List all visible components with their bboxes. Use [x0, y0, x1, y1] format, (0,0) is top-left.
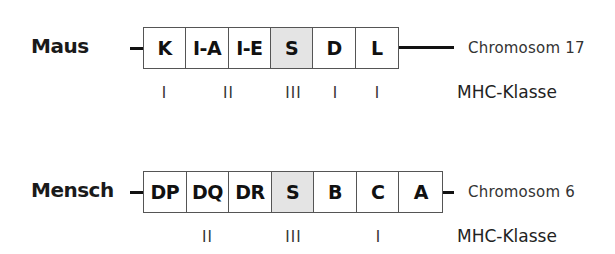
gene-s: S — [272, 172, 315, 212]
chromosome-line-left — [130, 47, 143, 50]
mhc-class-label: II — [207, 84, 250, 102]
gene-map-mouse: K I-A I-E S D L — [143, 27, 399, 69]
mhc-class-label: I — [356, 84, 399, 102]
mhc-class-label: II — [186, 228, 229, 246]
gene-c: C — [357, 172, 400, 212]
chromosome-label-human: Chromosom 6 — [468, 183, 575, 201]
gene-map-human: DP DQ DR S B C A — [143, 171, 443, 213]
chromosome-label-mouse: Chromosom 17 — [468, 39, 585, 57]
mhc-class-label: III — [272, 228, 315, 246]
gene-dp: DP — [144, 172, 187, 212]
mhc-class-label: I — [143, 84, 186, 102]
chromosome-line-right — [399, 46, 454, 49]
gene-i-a: I-A — [186, 28, 228, 68]
gene-i-e: I-E — [229, 28, 271, 68]
chromosome-line-left — [130, 191, 143, 194]
chromosome-line-right — [443, 191, 454, 194]
mhc-class-axis-label-mouse: MHC-Klasse — [457, 82, 557, 102]
gene-a: A — [399, 172, 442, 212]
gene-l: L — [356, 28, 398, 68]
gene-k: K — [144, 28, 186, 68]
gene-d: D — [313, 28, 355, 68]
gene-b: B — [314, 172, 357, 212]
gene-s: S — [271, 28, 313, 68]
species-label-human: Mensch — [31, 178, 114, 202]
mhc-class-label: III — [272, 84, 315, 102]
mhc-class-label: I — [357, 228, 400, 246]
mhc-class-label: I — [314, 84, 357, 102]
gene-dr: DR — [229, 172, 272, 212]
species-label-mouse: Maus — [31, 34, 89, 58]
gene-dq: DQ — [187, 172, 230, 212]
mhc-class-axis-label-human: MHC-Klasse — [457, 226, 557, 246]
